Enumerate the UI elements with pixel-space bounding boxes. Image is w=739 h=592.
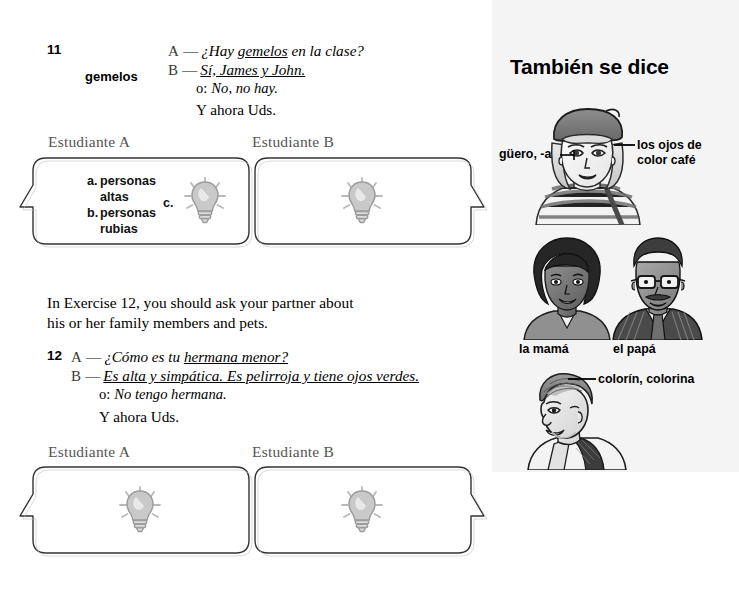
exercise-11-b-text: Sí, James y John.: [200, 61, 305, 78]
tambien-se-dice-panel: También se dice: [492, 0, 739, 472]
label-ojos-color-cafe: los ojos de color café: [637, 138, 702, 168]
option-b-letter: b.: [87, 205, 100, 221]
option-a-letter: a.: [87, 173, 100, 189]
underlined-gemelos: gemelos: [238, 42, 288, 59]
exercise-12-intro: In Exercise 12, you should ask your part…: [47, 293, 447, 332]
exercise-11-a-text: ¿Hay gemelos en la clase?: [201, 42, 364, 59]
exercise-11-bubble-student-b[interactable]: [252, 155, 474, 247]
exercise-12-b-text: Es alta y simpática. Es pelirroja y tien…: [103, 367, 419, 384]
option-c-letter: c.: [163, 196, 174, 210]
lightbulb-icon: [337, 175, 387, 227]
intro-line-1: In Exercise 12, you should ask your part…: [47, 294, 353, 311]
option-b-line2: rubias: [100, 222, 138, 236]
option-b-line1: personas: [100, 206, 156, 220]
exercise-12-alt: o: No tengo hermana.: [99, 385, 227, 403]
label-colorin-colorina: colorín, colorina: [598, 372, 694, 387]
exercise-11-line-b: B—Sí, James y John.: [168, 60, 305, 79]
exercise-12-line-b: B—Es alta y simpática. Es pelirroja y ti…: [71, 366, 419, 385]
lightbulb-icon: [180, 175, 230, 227]
option-b: b.personas rubias: [87, 205, 156, 237]
alt-prefix: o:: [99, 386, 110, 402]
exercise-11-line-a: A—¿Hay gemelos en la clase?: [168, 41, 364, 60]
exercise-12-bubble-student-a[interactable]: [30, 464, 252, 556]
exercise-11-alt: o: No, no hay.: [196, 79, 278, 97]
bubble-a-content: a.personas altas b.personas rubias c.: [30, 155, 252, 247]
exercise-12-student-b-label: Estudiante B: [252, 443, 334, 461]
speaker-b-label: B: [71, 368, 81, 384]
lightbulb-icon: [337, 484, 387, 536]
option-a: a.personas altas: [87, 173, 156, 205]
speaker-a-label: A: [71, 349, 82, 365]
exercise-12-number: 12: [47, 348, 62, 363]
em-dash: —: [81, 368, 103, 384]
alt-text: No tengo hermana.: [114, 386, 226, 402]
exercise-11-y-ahora: Y ahora Uds.: [196, 101, 276, 119]
exercise-12-line-a: A—¿Cómo es tu hermana menor?: [71, 347, 288, 366]
label-ojos-line2: color café: [637, 153, 696, 167]
em-dash: —: [82, 349, 104, 365]
intro-line-2: his or her family members and pets.: [47, 314, 268, 331]
illustration-1-leader-lines: [492, 0, 739, 200]
speaker-a-label: A: [168, 43, 179, 59]
label-la-mama: la mamá: [519, 342, 569, 357]
exercise-11-cue-word: gemelos: [85, 69, 138, 84]
exercise-12-a-text: ¿Cómo es tu hermana menor?: [104, 348, 288, 365]
exercise-11-number: 11: [47, 42, 61, 57]
exercise-11-bubble-student-a[interactable]: a.personas altas b.personas rubias c.: [30, 155, 252, 247]
em-dash: —: [178, 62, 200, 78]
bubble-b-content: [252, 464, 488, 556]
label-el-papa: el papá: [613, 342, 656, 357]
bubble-b-content: [252, 155, 474, 247]
underlined-hermana-menor: hermana menor?: [184, 348, 288, 365]
option-a-line2: altas: [100, 190, 129, 204]
speaker-b-label: B: [168, 62, 178, 78]
em-dash: —: [179, 43, 201, 59]
illustration-3-leader-line: [492, 360, 739, 420]
exercise-11-student-a-label: Estudiante A: [48, 133, 130, 151]
label-ojos-line1: los ojos de: [637, 138, 702, 152]
lightbulb-icon: [115, 484, 165, 536]
label-guero: güero, -a: [499, 147, 551, 162]
alt-prefix: o:: [196, 80, 207, 96]
illustration-parents-couple: [518, 232, 703, 340]
bubble-a-content: [30, 464, 252, 556]
alt-text: No, no hay.: [211, 80, 277, 96]
exercise-12-y-ahora: Y ahora Uds.: [99, 408, 179, 426]
exercise-12-student-a-label: Estudiante A: [48, 443, 130, 461]
option-a-line1: personas: [100, 174, 156, 188]
exercise-11-student-b-label: Estudiante B: [252, 133, 334, 151]
exercise-12-bubble-student-b[interactable]: [252, 464, 488, 556]
